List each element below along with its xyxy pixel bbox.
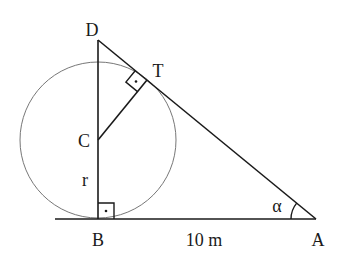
label-T: T [153,61,164,81]
angle-arc-alpha [291,203,297,219]
label-D: D [86,20,99,40]
label-distance-BA: 10 m [186,230,223,250]
label-A: A [312,230,325,250]
label-angle-alpha: α [272,196,282,216]
label-C: C [78,131,90,151]
geometry-diagram: D T C r B 10 m A α [0,0,347,264]
label-B: B [92,230,104,250]
radius-CT [98,80,147,140]
right-angle-marker-T [126,71,138,92]
tangent-line-DA [98,40,316,219]
label-radius-r: r [82,170,88,190]
